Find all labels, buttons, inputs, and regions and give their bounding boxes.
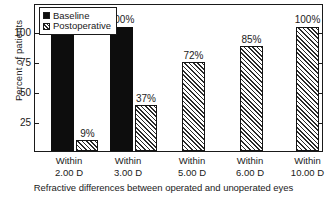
legend-item-postoperative: Postoperative	[43, 21, 111, 31]
chart-legend: Baseline Postoperative	[39, 7, 117, 35]
y-tick-label-25: 25	[5, 118, 31, 128]
x-label-within-2.00-d: Within 2.00 D	[39, 155, 99, 178]
bar-baseline-within-3.00-d	[110, 27, 133, 151]
bar-postoperative-within-6.00-d	[240, 46, 263, 151]
legend-swatch-postoperative-icon	[43, 23, 50, 30]
x-label-within-3.00-d: Within 3.00 D	[98, 155, 158, 178]
x-axis-caption: Refractive differences between operated …	[0, 182, 327, 193]
bar-value-label-postoperative-within-10.00-d: 100%	[285, 15, 327, 25]
y-axis-tick-labels: 100 75 50 25	[0, 0, 31, 198]
x-label-within-6.00-d: Within 6.00 D	[220, 155, 280, 178]
bar-chart-figure: Percent of patients 100 75 50 25 96% 9% …	[0, 0, 327, 198]
bar-value-label-postoperative-within-2.00-d: 9%	[68, 129, 107, 139]
legend-item-baseline: Baseline	[43, 11, 111, 21]
bar-value-label-postoperative-within-6.00-d: 85%	[231, 35, 272, 45]
legend-swatch-baseline-icon	[43, 12, 50, 19]
plot-area: 96% 9% 100% 37% 72% 85% 100% Baseline	[34, 4, 323, 152]
y-tick-label-75: 75	[5, 58, 31, 68]
y-tick-label-50: 50	[5, 88, 31, 98]
x-label-within-10.00-d: Within 10.00 D	[276, 155, 327, 178]
bar-value-label-postoperative-within-3.00-d: 37%	[126, 94, 166, 104]
bar-postoperative-within-10.00-d	[296, 27, 319, 151]
x-label-within-5.00-d: Within 5.00 D	[162, 155, 222, 178]
bar-postoperative-within-5.00-d	[182, 62, 205, 151]
y-tick-label-100: 100	[5, 28, 31, 38]
x-axis-category-labels: Within 2.00 D Within 3.00 D Within 5.00 …	[34, 155, 323, 183]
bar-postoperative-within-3.00-d	[135, 105, 157, 151]
legend-label-baseline: Baseline	[53, 11, 89, 21]
bar-postoperative-within-2.00-d	[76, 140, 98, 151]
legend-label-postoperative: Postoperative	[53, 21, 111, 31]
bar-value-label-postoperative-within-5.00-d: 72%	[173, 51, 214, 61]
